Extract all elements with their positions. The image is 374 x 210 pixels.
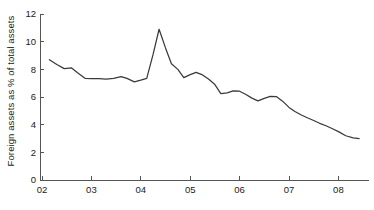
x-axis-group: 02030405060708 <box>37 176 369 195</box>
x-tick-label: 07 <box>284 184 295 195</box>
x-tick-label: 08 <box>333 184 344 195</box>
data-series-group <box>49 29 359 138</box>
y-axis-group: 024681012 <box>25 8 44 185</box>
y-tick-label: 10 <box>25 36 36 47</box>
x-tick-label: 05 <box>185 184 196 195</box>
x-tick-label: 06 <box>234 184 245 195</box>
y-tick-label: 0 <box>31 174 36 185</box>
x-tick-label: 03 <box>86 184 97 195</box>
chart-container: Foreign assets as % of total assets 0246… <box>0 0 374 210</box>
y-tick-label: 12 <box>25 8 36 19</box>
data-series-line <box>49 29 359 138</box>
x-tick-label: 02 <box>37 184 48 195</box>
y-tick-label: 8 <box>31 64 36 75</box>
y-tick-label: 6 <box>31 91 36 102</box>
y-tick-label: 2 <box>31 147 36 158</box>
y-tick-label: 4 <box>31 119 36 130</box>
y-axis-tick-labels: 024681012 <box>25 8 36 185</box>
line-chart-plot: 024681012 02030405060708 <box>0 0 374 210</box>
x-axis-tick-labels: 02030405060708 <box>37 184 344 195</box>
x-tick-label: 04 <box>136 184 147 195</box>
x-axis-ticks <box>42 176 338 180</box>
y-axis-ticks <box>40 14 44 180</box>
